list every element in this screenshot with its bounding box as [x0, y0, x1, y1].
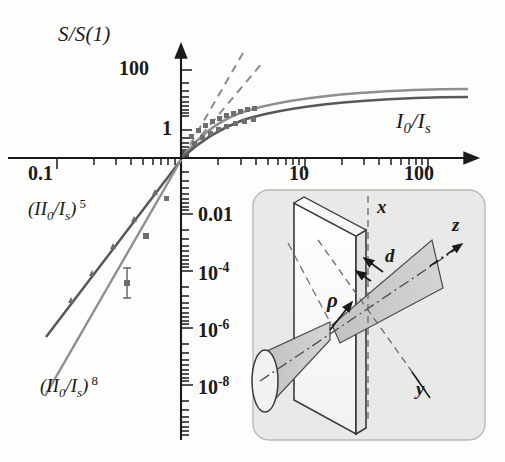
- y-tick-label-1e-8: 10-8: [198, 374, 229, 399]
- annotation-power-8: (II0/Is)8: [40, 373, 98, 401]
- inset-label-x: x: [377, 196, 387, 218]
- x-tick-label-100: 100: [404, 162, 434, 185]
- annotation-power-5: (I/II0/Is)5: [28, 196, 86, 224]
- y-axis-ticks: [181, 70, 193, 435]
- inset-beam-left-aperture: [252, 350, 278, 412]
- x-axis-title-slash-I: /I: [411, 108, 425, 133]
- y-tick-label-1e-4: 10-4: [198, 260, 229, 285]
- x-axis-ticks: [57, 158, 428, 170]
- x-axis-title: I0/Is: [396, 108, 431, 137]
- y-tick-label-0-01: 0.01: [198, 203, 233, 226]
- x-tick-label-10: 10: [289, 162, 309, 185]
- inset-label-z: z: [452, 214, 459, 236]
- inset-diagram: [252, 190, 485, 440]
- y-tick-label-100: 100: [119, 57, 149, 80]
- inset-label-rho: ρ: [327, 288, 338, 313]
- y-axis-title: S/S(1): [58, 22, 111, 47]
- x-tick-label-0-1: 0.1: [28, 162, 53, 185]
- x-axis-title-I: I: [396, 108, 404, 133]
- inset-label-d: d: [385, 245, 395, 267]
- y-tick-label-1e-6: 10-6: [198, 317, 229, 342]
- power8-data-points: [124, 196, 169, 286]
- y-tick-label-1: 1: [162, 117, 172, 140]
- x-axis-title-sub-s: s: [425, 120, 431, 136]
- inset-label-y: y: [416, 378, 424, 400]
